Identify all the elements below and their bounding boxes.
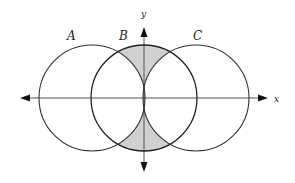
circle-c-label: C xyxy=(193,29,202,43)
venn-diagram: A B C y x xyxy=(0,0,295,183)
arrow-right-icon xyxy=(258,95,268,102)
circle-a-label: A xyxy=(66,29,76,43)
arrow-up-icon xyxy=(141,27,148,37)
arrow-down-icon xyxy=(141,162,148,172)
x-axis-label: x xyxy=(274,94,279,104)
shaded-region xyxy=(0,0,295,183)
y-axis-label: y xyxy=(140,9,147,19)
arrow-left-icon xyxy=(20,95,30,102)
circle-b-label: B xyxy=(118,29,128,43)
